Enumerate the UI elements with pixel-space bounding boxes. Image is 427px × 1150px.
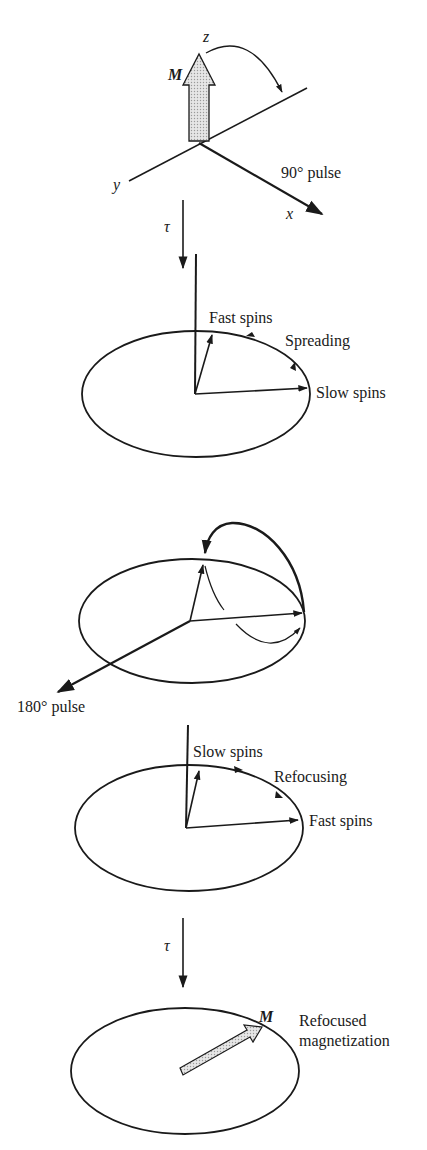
fast-spin-vector bbox=[186, 820, 298, 828]
delay-tau-2: τ bbox=[164, 918, 183, 987]
spin-echo-diagram: M z y x 90° pulse τ Fast spins Spreading… bbox=[0, 0, 427, 1150]
slow-spin-vector bbox=[186, 771, 199, 828]
magnetization-arrow-icon bbox=[183, 54, 215, 141]
refocused-label-line2: magnetization bbox=[299, 1032, 390, 1050]
magnetization-label: M bbox=[167, 66, 183, 83]
magnetization-label: M bbox=[258, 1008, 274, 1025]
z-axis-line bbox=[186, 725, 188, 828]
frame-refocusing: Slow spins Refocusing Fast spins bbox=[75, 725, 373, 891]
spin-vector-short bbox=[190, 565, 203, 621]
pulse-180-label: 180° pulse bbox=[17, 698, 85, 716]
y-axis-label: y bbox=[111, 176, 121, 194]
z-axis-label: z bbox=[202, 28, 210, 45]
frame-180-pulse: 180° pulse bbox=[17, 523, 305, 716]
fast-spin-vector bbox=[195, 335, 212, 394]
flip-arc-arrow bbox=[205, 523, 304, 612]
spreading-label: Spreading bbox=[285, 332, 350, 350]
refocused-label-line1: Refocused bbox=[299, 1012, 367, 1029]
spreading-arrowhead-left bbox=[246, 332, 255, 337]
slow-spins-label: Slow spins bbox=[193, 743, 263, 761]
rotation-arc-arrow bbox=[206, 46, 282, 92]
spin-vector-long bbox=[190, 613, 302, 621]
slow-spin-vector bbox=[195, 388, 307, 394]
frame-dephasing: Fast spins Spreading Slow spins bbox=[82, 254, 386, 457]
frame-90-pulse: M z y x 90° pulse bbox=[111, 28, 341, 222]
refocusing-label: Refocusing bbox=[274, 768, 347, 786]
frame-refocused: M Refocused magnetization bbox=[71, 1008, 390, 1134]
slow-spins-label: Slow spins bbox=[316, 384, 386, 402]
fast-spins-label: Fast spins bbox=[209, 309, 273, 327]
fast-spins-label: Fast spins bbox=[309, 812, 373, 830]
flip-path-upper bbox=[205, 566, 224, 610]
pulse-90-label: 90° pulse bbox=[281, 164, 341, 182]
delay-tau-1: τ bbox=[164, 200, 183, 268]
x-axis-label: x bbox=[285, 205, 293, 222]
tau-label: τ bbox=[164, 937, 171, 954]
refocused-magnetization-arrow-icon bbox=[180, 1025, 262, 1075]
tau-label: τ bbox=[164, 218, 171, 235]
flip-path-lower bbox=[236, 624, 300, 643]
z-axis-line bbox=[195, 254, 196, 394]
spreading-arrowhead-right bbox=[290, 362, 296, 371]
